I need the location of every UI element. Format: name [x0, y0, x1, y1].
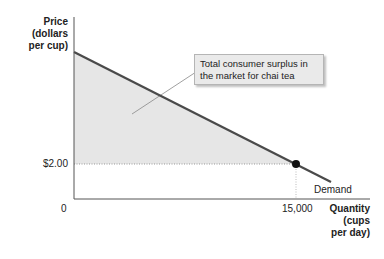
y-axis-label: Price (dollars per cup): [10, 16, 68, 52]
x-axis-label-line: Quantity: [320, 203, 370, 215]
y-axis-label-line: (dollars: [10, 28, 68, 40]
price-tick-label: $2.00: [20, 158, 68, 170]
callout-text-line: the market for chai tea: [200, 70, 323, 82]
y-axis-label-line: Price: [10, 16, 68, 28]
consumer-surplus-callout: Total consumer surplus in the market for…: [194, 54, 324, 85]
x-axis-label: Quantity (cups per day): [320, 203, 370, 239]
y-axis-label-line: per cup): [10, 40, 68, 52]
demand-label: Demand: [314, 184, 352, 196]
x-axis-label-line: per day): [320, 227, 370, 239]
callout-text-line: Total consumer surplus in: [200, 58, 323, 70]
origin-label: 0: [61, 203, 67, 215]
equilibrium-point: [292, 160, 300, 168]
x-axis-label-line: (cups: [320, 215, 370, 227]
quantity-tick-label: 15,000: [282, 203, 313, 215]
